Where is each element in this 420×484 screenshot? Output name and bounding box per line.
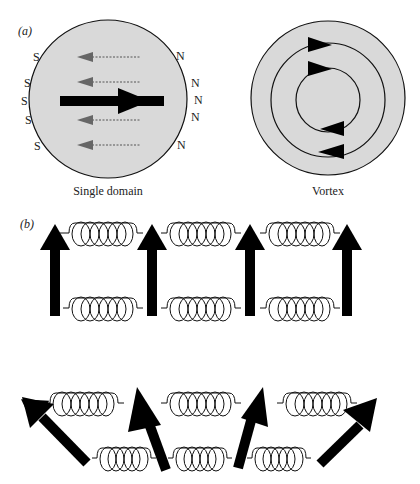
- spring-bottom-2: [168, 447, 232, 471]
- panel-b-label: (b): [20, 217, 34, 231]
- spring-bottom-3: [260, 297, 340, 321]
- spring-top-2: [161, 392, 241, 416]
- svg-text:N: N: [191, 110, 200, 124]
- up-arrow-icon: [40, 224, 70, 316]
- single-domain-disk: [29, 20, 187, 178]
- canted-arrow-up-right-icon: [320, 398, 377, 464]
- svg-text:S: S: [33, 50, 40, 64]
- spring-bottom-2: [161, 297, 241, 321]
- aligned-spin-chain: [40, 222, 362, 321]
- svg-text:S: S: [24, 76, 31, 90]
- up-arrow-icon: [235, 224, 265, 316]
- spring-top-1: [63, 222, 143, 246]
- panel-a-label: (a): [18, 24, 32, 38]
- vortex-caption: Vortex: [312, 184, 344, 198]
- svg-text:S: S: [34, 139, 41, 153]
- spring-bottom-1: [92, 447, 156, 471]
- figure-canvas: (a) S S S S S N N N N N Single: [0, 0, 420, 484]
- svg-text:N: N: [194, 93, 203, 107]
- spring-top-2: [161, 222, 241, 246]
- up-arrow-icon: [332, 224, 362, 316]
- single-domain-caption: Single domain: [73, 184, 143, 198]
- canted-spin-chain: [21, 387, 377, 471]
- svg-text:S: S: [25, 113, 32, 127]
- canted-arrow-up-icon: [128, 387, 166, 470]
- svg-text:N: N: [177, 138, 186, 152]
- svg-text:N: N: [191, 76, 200, 90]
- vortex-disk: [251, 21, 405, 175]
- canted-arrow-up-left-icon: [21, 397, 87, 463]
- svg-text:S: S: [21, 94, 28, 108]
- spring-top-3: [260, 222, 340, 246]
- spring-top-1: [44, 392, 124, 416]
- spring-bottom-1: [63, 297, 143, 321]
- spring-bottom-3: [247, 447, 311, 471]
- svg-text:N: N: [176, 49, 185, 63]
- up-arrow-icon: [137, 224, 167, 316]
- spring-top-3: [277, 392, 357, 416]
